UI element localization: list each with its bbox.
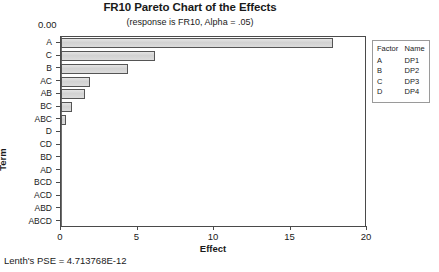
y-tick-label-B: B: [46, 63, 56, 73]
y-tick-label-AB: AB: [41, 88, 56, 98]
x-tick-mark-20: [366, 226, 367, 230]
y-tick-CD: CD: [40, 138, 60, 151]
legend-row: CDP3: [377, 77, 425, 88]
bar-rect-ABC: [61, 115, 66, 125]
pareto-chart: FR10 Pareto Chart of the Effects (respon…: [0, 0, 439, 272]
x-tick-label-20: 20: [361, 231, 372, 242]
y-tick-label-C: C: [46, 50, 56, 60]
bar-B: [61, 62, 128, 75]
y-tick-label-ABCD: ABCD: [28, 216, 56, 226]
y-tick-label-ABC: ABC: [35, 114, 56, 124]
y-tick-ABC: ABC: [35, 112, 60, 125]
bar-A: [61, 37, 333, 50]
bar-rect-AC: [61, 77, 90, 87]
y-tick-label-ABD: ABD: [35, 203, 56, 213]
y-tick-B: B: [46, 61, 60, 74]
bar-AC: [61, 75, 90, 88]
y-tick-AB: AB: [41, 87, 60, 100]
y-tick-D: D: [46, 125, 60, 138]
y-tick-ACD: ACD: [34, 189, 60, 202]
legend-row: DDP4: [377, 87, 425, 98]
bar-C: [61, 50, 155, 63]
legend-table: Factor Name ADP1BDP2CDP3DDP4: [377, 44, 425, 98]
bar-rect-BC: [61, 102, 72, 112]
y-tick-C: C: [46, 49, 60, 62]
bar-rect-C: [61, 51, 155, 61]
y-axis: Term ACBACABBCABCDCDBDADBCDACDABDABCD: [0, 36, 60, 227]
legend-header-factor: Factor: [377, 44, 399, 56]
factor-legend: Factor Name ADP1BDP2CDP3DDP4: [372, 40, 430, 103]
bar-AB: [61, 88, 85, 101]
legend-factor-D: D: [377, 87, 399, 98]
y-tick-label-CD: CD: [40, 139, 56, 149]
x-tick-mark-0: [60, 226, 61, 230]
bar-rect-AB: [61, 89, 85, 99]
x-tick-mark-5: [137, 226, 138, 230]
x-tick-label-15: 15: [284, 231, 295, 242]
plot-area: [60, 36, 366, 227]
y-tick-BCD: BCD: [34, 176, 60, 189]
x-axis-title: Effect: [60, 243, 366, 254]
x-tick-mark-15: [290, 226, 291, 230]
y-tick-label-ACD: ACD: [34, 190, 56, 200]
y-tick-ABD: ABD: [35, 202, 60, 215]
legend-name-B: DP2: [399, 66, 425, 77]
x-tick-label-0: 0: [57, 231, 62, 242]
y-tick-label-D: D: [46, 126, 56, 136]
bar-BC: [61, 101, 72, 114]
bar-rect-B: [61, 64, 128, 74]
lenths-pse-footnote: Lenth's PSE = 4.713768E-12: [4, 255, 127, 266]
y-tick-BD: BD: [40, 151, 60, 164]
legend-factor-A: A: [377, 56, 399, 67]
y-tick-label-A: A: [46, 37, 56, 47]
x-tick-mark-10: [213, 226, 214, 230]
x-tick-label-10: 10: [208, 231, 219, 242]
y-tick-label-BCD: BCD: [34, 177, 56, 187]
bar-ABC: [61, 113, 66, 126]
legend-row: ADP1: [377, 56, 425, 67]
chart-title: FR10 Pareto Chart of the Effects: [0, 1, 380, 13]
reference-line-label: 0.00: [38, 19, 57, 30]
y-tick-AD: AD: [40, 163, 60, 176]
legend-name-C: DP3: [399, 77, 425, 88]
y-tick-label-BC: BC: [40, 101, 56, 111]
x-tick-label-5: 5: [134, 231, 139, 242]
legend-factor-B: B: [377, 66, 399, 77]
legend-header-row: Factor Name: [377, 44, 425, 56]
legend-body: ADP1BDP2CDP3DDP4: [377, 56, 425, 98]
chart-subtitle: (response is FR10, Alpha = .05): [0, 17, 380, 27]
legend-factor-C: C: [377, 77, 399, 88]
y-tick-label-BD: BD: [40, 152, 56, 162]
y-tick-AC: AC: [40, 74, 60, 87]
y-tick-ABCD: ABCD: [28, 214, 60, 227]
legend-name-D: DP4: [399, 87, 425, 98]
y-tick-label-AC: AC: [40, 76, 56, 86]
legend-name-A: DP1: [399, 56, 425, 67]
y-tick-BC: BC: [40, 100, 60, 113]
y-tick-label-AD: AD: [40, 165, 56, 175]
bar-rect-A: [61, 38, 333, 48]
legend-row: BDP2: [377, 66, 425, 77]
legend-header-name: Name: [399, 44, 425, 56]
y-tick-A: A: [46, 36, 60, 49]
y-axis-title: Term: [0, 148, 8, 171]
bar-series: [61, 37, 365, 226]
